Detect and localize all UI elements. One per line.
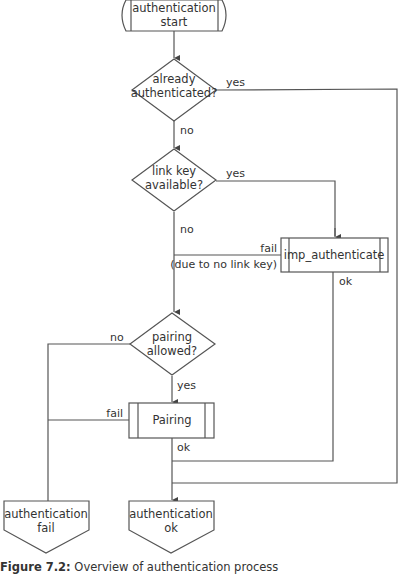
figure-caption-prefix: Figure 7.2:	[0, 560, 71, 574]
figure-caption-text: Overview of authentication process	[71, 560, 279, 574]
decision-already-authenticated: already authenticated?	[131, 59, 218, 121]
edge-label-pairing-allowed-no: no	[110, 331, 124, 344]
already-label-line2: authenticated?	[131, 86, 218, 100]
already-label-line1: already	[153, 72, 196, 86]
pairing-allowed-label-line2: allowed?	[147, 344, 197, 358]
edge-label-imp-ok: ok	[339, 275, 353, 288]
edge-label-imp-fail: fail	[260, 242, 277, 255]
endpoint-authentication-ok: authentication ok	[129, 501, 214, 553]
start-label-line1: authentication	[132, 1, 216, 15]
auth-fail-label-line2: fail	[37, 521, 55, 535]
edge-label-pairing-allowed-yes: yes	[177, 379, 196, 392]
link-key-label-line1: link key	[152, 164, 196, 178]
edge-label-link-yes: yes	[226, 167, 245, 180]
decision-link-key-available: link key available?	[132, 149, 216, 211]
pairing-allowed-label-line1: pairing	[152, 330, 192, 344]
pairing-label: Pairing	[152, 413, 191, 427]
edge-label-already-yes: yes	[226, 76, 245, 89]
process-imp-authenticate: imp_authenticate	[281, 238, 388, 272]
node-authentication-start: authentication start	[122, 0, 226, 31]
decision-pairing-allowed: pairing allowed?	[130, 313, 215, 375]
edge-label-already-no: no	[180, 124, 194, 137]
auth-ok-label-line1: authentication	[129, 507, 213, 521]
imp-authenticate-label: imp_authenticate	[284, 248, 385, 262]
endpoint-authentication-fail: authentication fail	[4, 501, 89, 553]
start-label-line2: start	[161, 15, 188, 29]
edge-label-link-no: no	[180, 223, 194, 236]
process-pairing: Pairing	[129, 403, 214, 438]
flowchart-canvas: authentication start already authenticat…	[0, 0, 401, 578]
auth-ok-label-line2: ok	[164, 521, 178, 535]
auth-fail-label-line1: authentication	[4, 507, 88, 521]
figure-caption: Figure 7.2: Overview of authentication p…	[0, 560, 278, 574]
link-key-label-line2: available?	[145, 178, 203, 192]
edge-label-pairing-ok: ok	[177, 441, 191, 454]
edge-label-imp-fail-note: (due to no link key)	[170, 258, 277, 271]
edge-label-pairing-fail: fail	[106, 407, 123, 420]
